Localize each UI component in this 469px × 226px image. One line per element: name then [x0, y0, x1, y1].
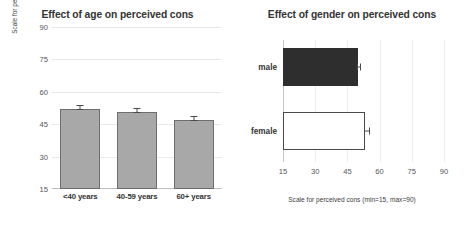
bar-row-male: male [283, 48, 358, 86]
x-axis-tick-label: 90 [440, 167, 448, 176]
x-axis-tick-label: 15 [279, 167, 287, 176]
bar-row-female: female [283, 112, 365, 150]
gridline [412, 40, 413, 162]
x-axis-labels-age: <40 years 40-59 years 60+ years [52, 192, 222, 201]
x-axis-tick-label: 60 [375, 167, 383, 176]
x-axis-tick-label: 75 [408, 167, 416, 176]
x-axis-tick-label: 60+ years [166, 192, 222, 201]
category-label-female: female [251, 127, 277, 136]
error-bar [136, 108, 137, 114]
plot-area-gender: male female 15 30 45 60 75 90 [283, 40, 444, 162]
bar-slot [117, 27, 157, 189]
chart-title-age: Effect of age on perceived cons [0, 9, 235, 20]
bar-age-40-59[interactable] [117, 112, 157, 189]
y-axis-tick-label: 90 [40, 23, 48, 32]
y-axis-tick-label: 60 [40, 87, 48, 96]
x-axis-label-gender: Scale for perceived cons (min=15, max=90… [235, 196, 469, 203]
x-axis-tick-label: 45 [343, 167, 351, 176]
category-label-male: male [258, 63, 277, 72]
bar-gender-female[interactable] [283, 112, 365, 150]
chart-title-gender: Effect of gender on perceived cons [235, 9, 469, 20]
y-axis-tick-label: 30 [40, 152, 48, 161]
gridline [380, 40, 381, 162]
x-axis-tick-label: 30 [311, 167, 319, 176]
y-axis-tick-label: 45 [40, 120, 48, 129]
bar-slot [60, 27, 100, 189]
bar-age-under40[interactable] [60, 109, 100, 189]
gridline [444, 40, 445, 162]
x-axis-tick-label: <40 years [52, 192, 108, 201]
y-axis-label-age: Scale for perceived cons (min=15, max=90… [8, 0, 22, 47]
plot-area-age: 90 75 60 45 30 15 [52, 27, 222, 189]
panel-effect-of-age: Effect of age on perceived cons Scale fo… [0, 0, 235, 226]
bar-gender-male[interactable] [283, 48, 358, 86]
error-bar [357, 67, 361, 68]
error-bar [80, 105, 81, 110]
x-axis-tick-label: 40-59 years [109, 192, 165, 201]
bar-group-age [52, 27, 222, 189]
bar-age-60plus[interactable] [174, 120, 214, 189]
y-axis-tick-label: 75 [40, 55, 48, 64]
error-bar [364, 131, 370, 132]
bar-slot [174, 27, 214, 189]
figure-two-panel-bar-charts: Effect of age on perceived cons Scale fo… [0, 0, 469, 226]
error-bar [193, 116, 194, 121]
panel-effect-of-gender: Effect of gender on perceived cons male … [235, 0, 469, 226]
y-axis-tick-label: 15 [40, 185, 48, 194]
